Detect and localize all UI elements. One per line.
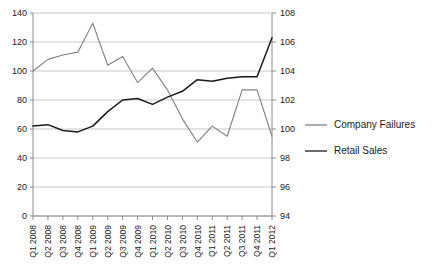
chart-legend: Company FailuresRetail Sales bbox=[305, 119, 415, 156]
legend-label[interactable]: Retail Sales bbox=[334, 145, 387, 156]
left-axis-tick-label: 120 bbox=[12, 37, 27, 47]
x-axis-category-label: Q2 2010 bbox=[163, 225, 173, 258]
left-axis-tick-label: 140 bbox=[12, 8, 27, 18]
x-axis-category-label: Q2 2009 bbox=[103, 225, 113, 258]
left-axis-tick-label: 100 bbox=[12, 66, 27, 76]
left-axis-tick-label: 20 bbox=[17, 182, 27, 192]
left-axis-tick-label: 80 bbox=[17, 95, 27, 105]
x-axis-category-label: Q1 2011 bbox=[207, 225, 217, 257]
x-axis-category-label: Q4 2008 bbox=[73, 225, 83, 258]
x-axis-category-label: Q1 2009 bbox=[88, 225, 98, 258]
x-axis-category-label: Q1 2008 bbox=[28, 225, 38, 258]
gridlines-group bbox=[33, 13, 272, 216]
chart-container: 020406080100120140 949698100102104106108… bbox=[0, 0, 432, 276]
right-axis: 949698100102104106108 bbox=[272, 8, 295, 221]
right-axis-tick-label: 96 bbox=[280, 182, 290, 192]
x-axis-category-label: Q2 2008 bbox=[43, 225, 53, 258]
x-axis: Q1 2008Q2 2008Q3 2008Q4 2008Q1 2009Q2 20… bbox=[28, 216, 277, 258]
left-axis-tick-label: 0 bbox=[22, 211, 27, 221]
right-axis-tick-label: 102 bbox=[280, 95, 295, 105]
right-axis-tick-label: 104 bbox=[280, 66, 295, 76]
left-axis-tick-label: 60 bbox=[17, 124, 27, 134]
x-axis-category-label: Q3 2010 bbox=[178, 225, 188, 258]
right-axis-tick-label: 94 bbox=[280, 211, 290, 221]
x-axis-category-label: Q4 2009 bbox=[133, 225, 143, 258]
series-line-retail-sales bbox=[33, 38, 272, 132]
left-axis: 020406080100120140 bbox=[12, 8, 33, 221]
x-axis-category-label: Q3 2009 bbox=[118, 225, 128, 258]
left-axis-tick-label: 40 bbox=[17, 153, 27, 163]
x-axis-category-label: Q3 2011 bbox=[237, 225, 247, 257]
right-axis-tick-label: 106 bbox=[280, 37, 295, 47]
legend-label[interactable]: Company Failures bbox=[334, 119, 415, 130]
right-axis-tick-label: 108 bbox=[280, 8, 295, 18]
dual-axis-line-chart: 020406080100120140 949698100102104106108… bbox=[0, 0, 432, 276]
series-line-company-failures bbox=[33, 23, 272, 142]
x-axis-category-label: Q4 2011 bbox=[252, 225, 262, 257]
x-axis-category-label: Q1 2012 bbox=[267, 225, 277, 258]
x-axis-category-label: Q4 2010 bbox=[193, 225, 203, 258]
x-axis-category-label: Q3 2008 bbox=[58, 225, 68, 258]
x-axis-category-label: Q2 2011 bbox=[222, 225, 232, 257]
right-axis-tick-label: 98 bbox=[280, 153, 290, 163]
right-axis-tick-label: 100 bbox=[280, 124, 295, 134]
x-axis-category-label: Q1 2010 bbox=[148, 225, 158, 258]
series-group bbox=[33, 23, 272, 142]
